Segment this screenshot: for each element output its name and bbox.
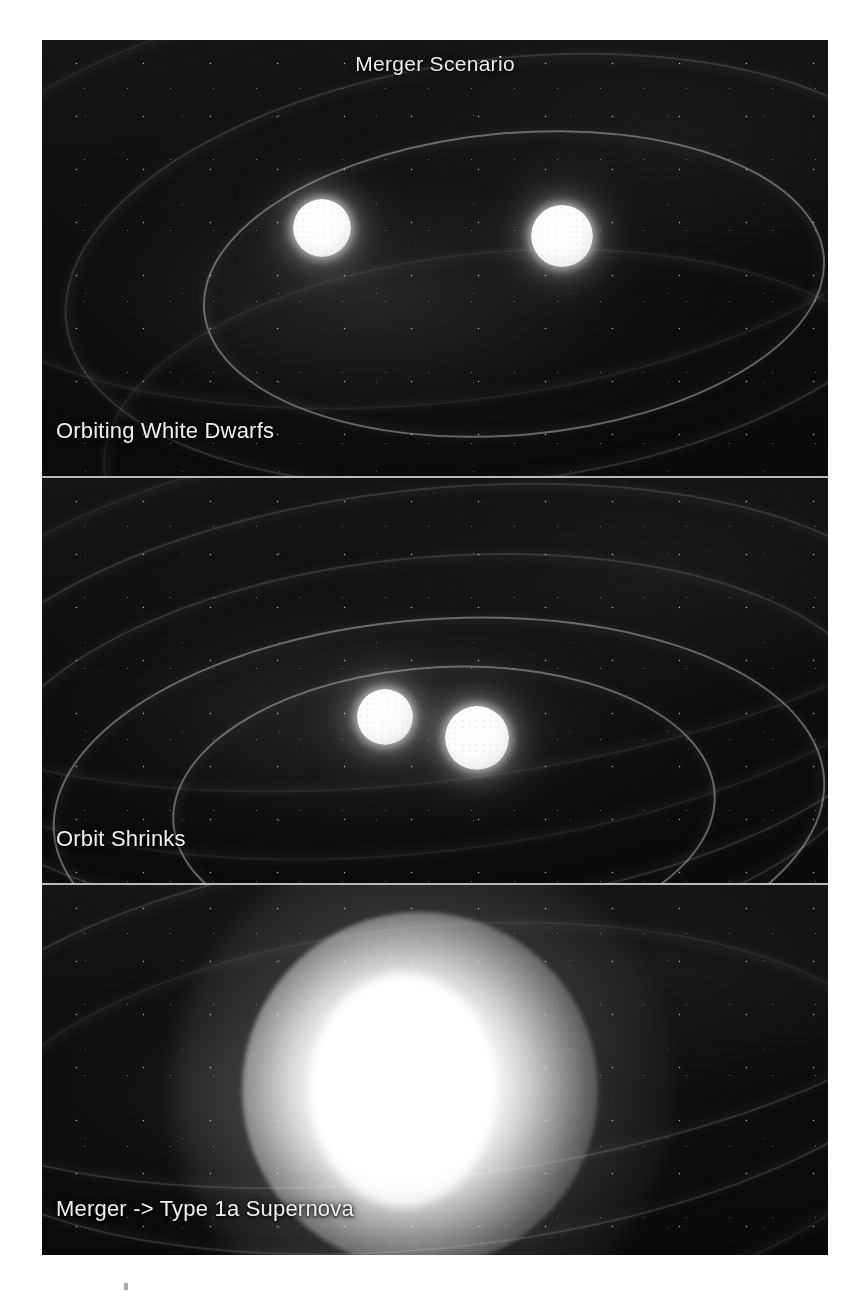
caption-panel-2: Orbit Shrinks xyxy=(56,826,186,852)
scan-smudge-artifact xyxy=(124,1283,128,1290)
caption-panel-3: Merger -> Type 1a Supernova xyxy=(56,1196,354,1222)
film-grain xyxy=(42,478,828,884)
white-dwarf-left xyxy=(357,689,413,745)
white-dwarf-right xyxy=(531,205,593,267)
panel-divider-1 xyxy=(42,476,828,478)
white-dwarf-right xyxy=(445,706,509,770)
merger-scenario-figure: Orbiting White Dwarfs Orbit Shrinks xyxy=(42,40,828,1255)
page-root: Orbiting White Dwarfs Orbit Shrinks xyxy=(0,0,868,1291)
supernova-core xyxy=(310,973,496,1207)
panel-orbiting-white-dwarfs: Orbiting White Dwarfs xyxy=(42,40,828,477)
panel-divider-2 xyxy=(42,883,828,885)
film-grain xyxy=(42,40,828,477)
panel-orbit-shrinks: Orbit Shrinks xyxy=(42,478,828,884)
figure-title: Merger Scenario xyxy=(42,52,828,76)
white-dwarf-left xyxy=(293,199,351,257)
panel-type-1a-supernova: Merger -> Type 1a Supernova xyxy=(42,885,828,1255)
caption-panel-1: Orbiting White Dwarfs xyxy=(56,418,274,444)
